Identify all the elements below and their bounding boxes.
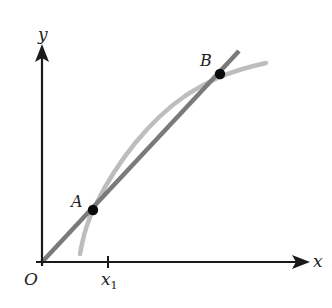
- x1-subscript: 1: [111, 279, 118, 292]
- x-axis-label: x: [313, 251, 323, 271]
- origin-label: O: [24, 269, 38, 289]
- secant-line: [42, 51, 239, 262]
- point-b-label: B: [199, 51, 212, 70]
- secant-diagram: y x O x1 A B: [0, 0, 332, 308]
- point-a-label: A: [69, 192, 83, 211]
- x1-tick-label: x1: [101, 269, 118, 292]
- point-b: [215, 69, 225, 79]
- y-axis-label: y: [37, 24, 48, 44]
- point-a: [88, 205, 98, 215]
- curve: [80, 63, 266, 254]
